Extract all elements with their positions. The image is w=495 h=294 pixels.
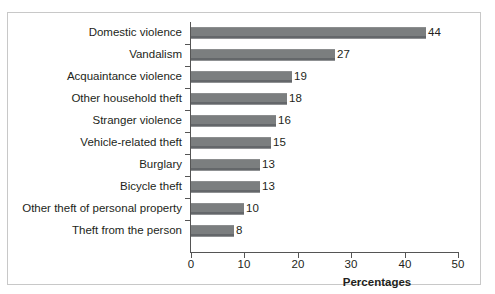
bar-row: Stranger violence 16	[8, 110, 480, 132]
bar-value-label: 13	[262, 159, 275, 171]
bar-row: Vehicle-related theft 15	[8, 132, 480, 154]
bar-row: Vandalism 27	[8, 44, 480, 66]
bar-row: Theft from the person 8	[8, 220, 480, 242]
category-label: Burglary	[139, 159, 182, 171]
bar	[191, 28, 426, 39]
bar	[191, 182, 260, 193]
bar-value-label: 44	[428, 27, 441, 39]
x-axis-title-text: Percentages	[343, 276, 411, 288]
y-axis-tick	[185, 220, 190, 221]
y-axis-tick	[185, 154, 190, 155]
bar-row: Other theft of personal property 10	[8, 198, 480, 220]
y-axis-tick	[185, 132, 190, 133]
y-axis-tick	[185, 44, 190, 45]
bar-row: Other household theft 18	[8, 88, 480, 110]
bar-value-label: 27	[337, 49, 350, 61]
y-axis-tick	[185, 110, 190, 111]
category-label: Acquaintance violence	[67, 71, 182, 83]
y-axis-tick	[185, 88, 190, 89]
bar-row: Bicycle theft 13	[8, 176, 480, 198]
bar-value-label: 18	[289, 93, 302, 105]
bar-row: Acquaintance violence 19	[8, 66, 480, 88]
y-axis-tick	[185, 176, 190, 177]
x-axis-tick-label: 10	[238, 259, 251, 271]
x-axis-line	[190, 252, 459, 253]
bar	[191, 204, 244, 215]
x-axis-tick-label: 0	[188, 259, 194, 271]
bar	[191, 50, 335, 61]
bar-value-label: 16	[278, 115, 291, 127]
bar	[191, 160, 260, 171]
category-label: Vehicle-related theft	[80, 137, 182, 149]
x-axis-tick-label: 50	[452, 259, 465, 271]
bar	[191, 226, 234, 237]
x-axis-tick-label: 20	[292, 259, 305, 271]
bar	[191, 72, 292, 83]
bar-value-label: 10	[246, 203, 259, 215]
x-axis-tick-label: 30	[345, 259, 358, 271]
x-axis-tick-label: 40	[399, 259, 412, 271]
y-axis-tick	[185, 198, 190, 199]
x-axis-title: Percentages	[8, 277, 480, 289]
bar	[191, 116, 276, 127]
bar	[191, 94, 287, 105]
bar-value-label: 13	[262, 181, 275, 193]
chart-figure: Domestic violence 44 Vandalism 27 Acquai…	[7, 12, 481, 285]
bar-row: Domestic violence 44	[8, 22, 480, 44]
category-label: Stranger violence	[93, 115, 183, 127]
bar-value-label: 8	[236, 225, 242, 237]
y-axis-tick	[185, 66, 190, 67]
bar-value-label: 15	[273, 137, 286, 149]
category-label: Vandalism	[129, 49, 182, 61]
bar-value-label: 19	[294, 71, 307, 83]
category-label: Domestic violence	[89, 27, 182, 39]
bar	[191, 138, 271, 149]
category-label: Other theft of personal property	[22, 203, 182, 215]
plot-area: Domestic violence 44 Vandalism 27 Acquai…	[8, 13, 480, 284]
category-label: Theft from the person	[72, 225, 182, 237]
category-label: Bicycle theft	[120, 181, 182, 193]
bar-row: Burglary 13	[8, 154, 480, 176]
category-label: Other household theft	[71, 93, 182, 105]
